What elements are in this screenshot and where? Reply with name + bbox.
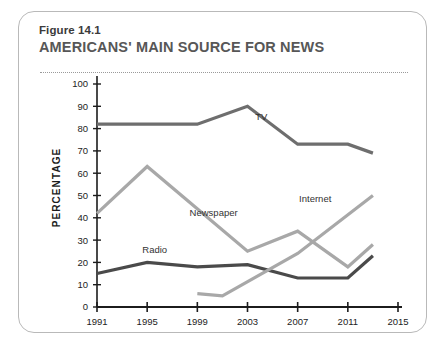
header-divider: [40, 72, 408, 74]
figure-number: Figure 14.1: [39, 23, 399, 37]
figure-title: AMERICANS' MAIN SOURCE FOR NEWS: [39, 38, 399, 56]
figure-header: Figure 14.1 AMERICANS' MAIN SOURCE FOR N…: [39, 23, 399, 56]
figure-card: Figure 14.1 AMERICANS' MAIN SOURCE FOR N…: [18, 11, 427, 333]
